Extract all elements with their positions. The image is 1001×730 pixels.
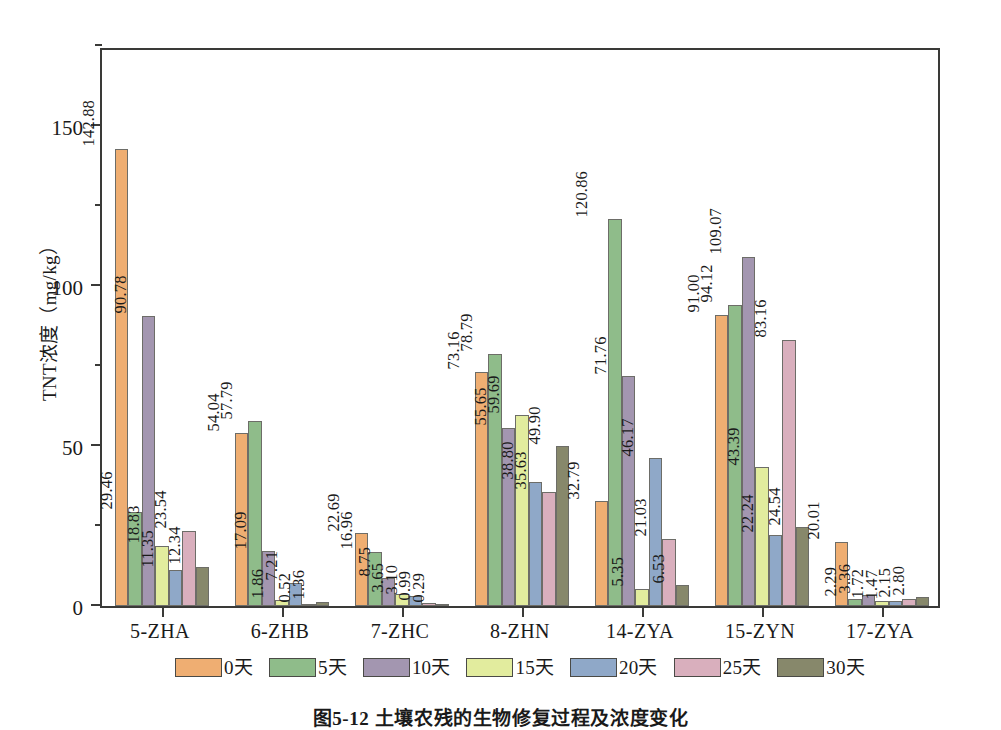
x-tick	[762, 606, 764, 617]
y-tick-label: 50	[5, 438, 83, 459]
y-tick-minor	[95, 524, 102, 526]
legend-label: 10天	[412, 658, 451, 677]
bar-value-label: 142.88	[81, 100, 98, 147]
bar-value-label: 6.53	[651, 553, 668, 583]
bar-value-label: 0.29	[411, 572, 428, 602]
bar[interactable]: 32.79	[595, 501, 609, 606]
legend-item[interactable]: 5天	[269, 658, 347, 677]
legend-label: 5天	[318, 658, 347, 677]
y-tick-major	[91, 604, 102, 606]
y-axis-title: TNT浓度（mg/kg）	[34, 169, 61, 469]
bar[interactable]: 1.72	[875, 601, 889, 607]
bar-group: 22.6916.968.753.653.100.990.29	[342, 50, 462, 606]
bar[interactable]: 83.16	[782, 340, 796, 606]
bar[interactable]: 23.54	[182, 531, 196, 606]
bar[interactable]: 2.15	[902, 599, 916, 606]
bar-value-label: 49.90	[526, 406, 543, 444]
legend-item[interactable]: 30天	[777, 658, 865, 677]
bar-group: 73.1678.7955.6559.6938.8035.6349.90	[462, 50, 582, 606]
chart-legend: 0天5天10天15天20天25天30天	[100, 658, 940, 677]
bar-value-label: 32.79	[565, 461, 582, 499]
legend-swatch	[777, 658, 824, 677]
bar[interactable]: 2.80	[916, 597, 930, 606]
legend-label: 30天	[826, 658, 865, 677]
bar[interactable]: 5.35	[635, 589, 649, 606]
y-tick-major	[91, 444, 102, 446]
legend-swatch	[363, 658, 410, 677]
legend-item[interactable]: 20天	[570, 658, 658, 677]
legend-item[interactable]: 10天	[363, 658, 451, 677]
bar[interactable]: 0.99	[422, 603, 436, 606]
bar[interactable]: 2.29	[848, 599, 862, 606]
bar[interactable]: 0.29	[436, 604, 450, 606]
bar-value-label: 109.07	[708, 208, 725, 255]
legend-item[interactable]: 0天	[175, 658, 253, 677]
bar[interactable]: 12.34	[196, 567, 210, 606]
bar-value-label: 59.69	[486, 375, 503, 413]
bar-group: 32.79120.8671.765.3546.1721.036.53	[582, 50, 702, 606]
bar[interactable]: 11.35	[169, 570, 183, 606]
y-tick-minor	[95, 364, 102, 366]
legend-label: 0天	[224, 658, 253, 677]
x-tick-label: 17-ZYA	[790, 620, 970, 643]
legend-swatch	[466, 658, 513, 677]
x-tick	[642, 606, 644, 617]
y-tick-major	[91, 284, 102, 286]
bar-value-label: 71.76	[592, 336, 609, 374]
y-tick-label: 150	[5, 118, 83, 139]
bar[interactable]: 35.63	[542, 492, 556, 606]
bar-value-label: 57.79	[219, 381, 236, 419]
bar[interactable]: 22.24	[769, 535, 783, 606]
y-tick-minor	[95, 44, 102, 46]
legend-swatch	[269, 658, 316, 677]
x-tick	[282, 606, 284, 617]
plot-area: 142.8829.4690.7818.8311.3523.5412.3454.0…	[100, 48, 940, 608]
legend-swatch	[175, 658, 222, 677]
y-tick-label: 0	[5, 598, 83, 619]
x-tick	[162, 606, 164, 617]
bar-value-label: 23.54	[153, 491, 170, 529]
legend-label: 15天	[515, 658, 554, 677]
y-tick-label: 100	[5, 278, 83, 299]
bar[interactable]: 120.86	[608, 219, 622, 606]
bar[interactable]: 1.36	[316, 602, 330, 606]
bar-value-label: 2.80	[891, 565, 908, 595]
bar-value-label: 24.54	[766, 487, 783, 525]
bar-value-label: 16.96	[339, 512, 356, 550]
bar-value-label: 78.79	[459, 314, 476, 352]
bar-value-label: 46.17	[619, 418, 636, 456]
bar-value-label: 120.86	[574, 171, 591, 218]
bar-value-label: 12.34	[166, 526, 183, 564]
bar-value-label: 90.78	[112, 275, 129, 313]
bar-value-label: 20.01	[805, 502, 822, 540]
legend-swatch	[674, 658, 721, 677]
bar-value-label: 5.35	[610, 557, 627, 587]
bar[interactable]: 46.17	[649, 458, 663, 606]
figure-caption: 图5-12 土壤农残的生物修复过程及浓度变化	[0, 703, 1001, 730]
legend-swatch	[570, 658, 617, 677]
bar-value-label: 29.46	[99, 472, 116, 510]
legend-item[interactable]: 25天	[674, 658, 762, 677]
bar[interactable]: 1.47	[889, 601, 903, 606]
bar-value-label: 35.63	[513, 452, 530, 490]
bar-value-label: 94.12	[699, 265, 716, 303]
legend-label: 25天	[723, 658, 762, 677]
bar[interactable]: 38.80	[529, 482, 543, 606]
y-tick-minor	[95, 204, 102, 206]
x-tick	[402, 606, 404, 617]
bar-group: 142.8829.4690.7818.8311.3523.5412.34	[102, 50, 222, 606]
bar-value-label: 21.03	[633, 499, 650, 537]
bar-value-label: 1.36	[291, 570, 308, 600]
bar[interactable]: 0.52	[302, 604, 316, 606]
bar[interactable]: 6.53	[676, 585, 690, 606]
bar-value-label: 11.35	[139, 530, 156, 568]
bar-value-label: 83.16	[753, 300, 770, 338]
legend-item[interactable]: 15天	[466, 658, 554, 677]
x-tick	[522, 606, 524, 617]
bar-value-label: 17.09	[232, 511, 249, 549]
bar-value-label: 22.24	[739, 495, 756, 533]
bar-group: 20.012.293.361.721.472.152.80	[822, 50, 942, 606]
legend-label: 20天	[619, 658, 658, 677]
bar-value-label: 43.39	[726, 427, 743, 465]
